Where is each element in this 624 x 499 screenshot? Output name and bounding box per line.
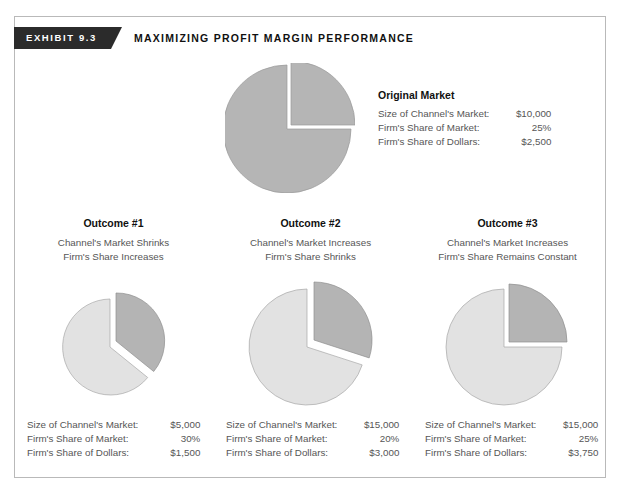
original-market-pie-svg [225,63,355,193]
outcome-3-subtitle-line-1: Channel's Market Increases [409,236,606,250]
exhibit-header: EXHIBIT 9.3 MAXIMIZING PROFIT MARGIN PER… [15,27,605,53]
stat-label: Firm's Share of Market: [27,432,144,446]
stat-label: Firm's Share of Dollars: [378,135,495,149]
exhibit-number-label: EXHIBIT 9.3 [26,32,97,43]
original-market-legend: Original Market Size of Channel's Market… [378,89,593,149]
original-market-stats-table: Size of Channel's Market: $10,000 Firm's… [378,107,551,149]
outcome-2-stats-table: Size of Channel's Market: $15,000 Firm's… [226,418,399,460]
outcome-column-2: Outcome #2 Channel's Market Increases Fi… [212,209,409,471]
stat-value: 20% [343,432,399,446]
pie-slice-firms-share [509,284,567,342]
table-row: Firm's Share of Dollars: $3,750 [425,446,598,460]
stat-value: $15,000 [343,418,399,432]
exhibit-badge-notch [111,27,122,49]
stat-label: Firm's Share of Dollars: [27,446,144,460]
outcome-3-subtitle: Channel's Market Increases Firm's Share … [409,236,606,263]
stat-value: $1,500 [144,446,200,460]
table-row: Firm's Share of Market: 25% [378,121,551,135]
exhibit-number-badge: EXHIBIT 9.3 [14,27,111,49]
outcome-2-subtitle-line-1: Channel's Market Increases [212,236,409,250]
pie-slice-firms-share [291,63,355,125]
table-row: Size of Channel's Market: $15,000 [226,418,399,432]
outcome-3-heading: Outcome #3 [409,217,606,229]
outcome-1-heading: Outcome #1 [15,217,212,229]
exhibit-title: MAXIMIZING PROFIT MARGIN PERFORMANCE [134,29,414,47]
table-row: Firm's Share of Market: 30% [27,432,200,446]
outcome-1-subtitle-line-2: Firm's Share Increases [15,250,212,264]
stat-value: 25% [542,432,598,446]
table-row: Firm's Share of Market: 25% [425,432,598,446]
outcome-1-subtitle: Channel's Market Shrinks Firm's Share In… [15,236,212,263]
stat-label: Firm's Share of Market: [425,432,542,446]
stat-label: Firm's Share of Dollars: [425,446,542,460]
stat-label: Size of Channel's Market: [27,418,144,432]
stat-label: Firm's Share of Dollars: [226,446,343,460]
stat-value: $15,000 [542,418,598,432]
table-row: Firm's Share of Dollars: $2,500 [378,135,551,149]
stat-label: Size of Channel's Market: [226,418,343,432]
outcome-1-pie-svg [58,287,170,399]
original-market-title: Original Market [378,89,593,101]
outcomes-row: Outcome #1 Channel's Market Shrinks Firm… [15,209,605,471]
table-row: Firm's Share of Dollars: $3,000 [226,446,399,460]
stat-label: Size of Channel's Market: [378,107,495,121]
outcome-column-1: Outcome #1 Channel's Market Shrinks Firm… [15,209,212,471]
stat-value: $2,500 [495,135,551,149]
stat-value: $10,000 [495,107,551,121]
outcome-3-pie-chart [409,279,606,411]
stat-value: $5,000 [144,418,200,432]
stat-label: Size of Channel's Market: [425,418,542,432]
outcome-column-3: Outcome #3 Channel's Market Increases Fi… [409,209,606,471]
table-row: Firm's Share of Dollars: $1,500 [27,446,200,460]
stat-value: $3,750 [542,446,598,460]
original-market-pie-chart [225,63,355,193]
table-row: Firm's Share of Market: 20% [226,432,399,446]
table-row: Size of Channel's Market: $5,000 [27,418,200,432]
stat-value: 25% [495,121,551,135]
stat-value: $3,000 [343,446,399,460]
table-row: Size of Channel's Market: $15,000 [425,418,598,432]
outcome-1-pie-chart [15,287,212,399]
outcome-2-subtitle: Channel's Market Increases Firm's Share … [212,236,409,263]
outcome-3-subtitle-line-2: Firm's Share Remains Constant [409,250,606,264]
outcome-1-subtitle-line-1: Channel's Market Shrinks [15,236,212,250]
outcome-2-subtitle-line-2: Firm's Share Shrinks [212,250,409,264]
stat-label: Firm's Share of Market: [226,432,343,446]
original-market-section: Original Market Size of Channel's Market… [15,57,605,207]
outcome-3-pie-svg [442,279,574,411]
outcome-2-pie-chart [212,279,409,411]
outcome-2-pie-svg [245,279,377,411]
stat-label: Firm's Share of Market: [378,121,495,135]
stat-value: 30% [144,432,200,446]
outcome-2-heading: Outcome #2 [212,217,409,229]
outcome-3-stats-table: Size of Channel's Market: $15,000 Firm's… [425,418,598,460]
table-row: Size of Channel's Market: $10,000 [378,107,551,121]
pie-slice-firms-share [314,282,372,358]
outcome-1-stats-table: Size of Channel's Market: $5,000 Firm's … [27,418,200,460]
exhibit-frame: EXHIBIT 9.3 MAXIMIZING PROFIT MARGIN PER… [14,16,606,478]
